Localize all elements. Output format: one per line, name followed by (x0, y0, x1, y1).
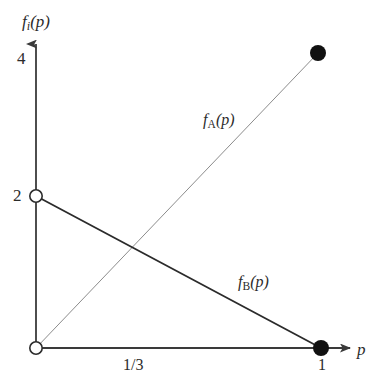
endpoint-marker-fa-open (30, 342, 42, 354)
endpoint-marker-fb-open (30, 190, 42, 202)
curve-fa-line (36, 53, 318, 348)
x-tick-label-one: 1 (318, 357, 326, 373)
curve-label-fa: fA(p) (203, 112, 235, 130)
figure-container: fi(p) p 4 2 1/3 1 fA(p) fB(p) (0, 0, 383, 390)
curve-label-fb: fB(p) (238, 274, 269, 292)
endpoint-marker-fb-filled (313, 340, 329, 356)
y-axis-label-arg: (p) (30, 12, 50, 31)
curve-label-fa-arg: (p) (216, 111, 235, 128)
curve-fb-line (36, 196, 321, 348)
y-axis-label: fi(p) (22, 13, 50, 32)
plot-canvas (0, 0, 383, 390)
y-tick-label-4: 4 (17, 50, 26, 67)
curve-label-fb-arg: (p) (250, 273, 269, 290)
x-tick-label-one-third: 1/3 (123, 357, 143, 373)
curve-label-fa-subscript: A (207, 118, 215, 130)
endpoint-marker-fa-filled (310, 45, 326, 61)
x-axis-label: p (357, 341, 366, 358)
y-tick-label-2: 2 (13, 187, 22, 204)
